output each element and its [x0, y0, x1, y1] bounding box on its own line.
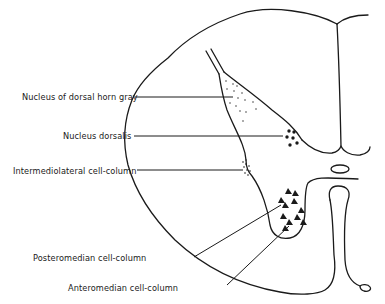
label-nucleus-dorsal-horn-gray: Nucleus of dorsal horn gray — [22, 92, 138, 102]
leader-posteromedian — [194, 205, 281, 257]
label-nucleus-dorsalis: Nucleus dorsalis — [63, 131, 131, 141]
label-intermediolateral-cell-column: Intermediolateral cell-column — [13, 166, 136, 176]
dorsal-horn-outline — [219, 72, 302, 160]
anterior-spinal-artery-glyph — [360, 285, 371, 292]
anterior-median-fissure — [329, 186, 360, 286]
dorsal-gray-lower-border — [302, 140, 370, 155]
contralateral-outline-top — [337, 15, 368, 24]
posterior-median-septum — [337, 24, 341, 146]
dorsal-horn-stalk-left — [206, 51, 219, 74]
dorsal-horn-stalk-right — [211, 49, 224, 72]
label-anteromedian-cell-column: Anteromedian cell-column — [68, 283, 178, 293]
leader-anteromedian — [227, 226, 289, 285]
intermediate-gray-outline — [246, 160, 358, 238]
ventral-horn-triangles — [278, 188, 307, 231]
central-canal — [331, 165, 349, 173]
cord-outline — [125, 9, 337, 294]
label-posteromedian-cell-column: Posteromedian cell-column — [33, 253, 146, 263]
